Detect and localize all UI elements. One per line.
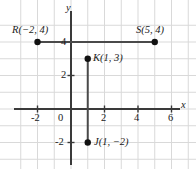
x-axis-label: x	[181, 100, 186, 111]
y-tick-label-2: 2	[61, 70, 66, 81]
y-axis-label: y	[66, 3, 71, 14]
x-tick-label--2: -2	[31, 113, 40, 124]
point-label-S: S(5, 4)	[136, 25, 164, 36]
coordinate-plane-figure: R(−2, 4) S(5, 4) K(1, 3) J(1, −2) -2 0 2…	[0, 0, 196, 169]
point-R	[34, 39, 40, 45]
x-tick-label-2: 2	[101, 113, 106, 124]
x-tick-label-6: 6	[168, 113, 173, 124]
y-tick-label-4: 4	[61, 37, 66, 48]
y-tick-label--2: -2	[55, 137, 64, 148]
point-label-R: R(−2, 4)	[12, 25, 48, 36]
x-tick-label-0: 0	[58, 113, 63, 124]
point-label-J: J(1, −2)	[94, 137, 129, 148]
point-S	[152, 39, 158, 45]
x-tick-label-4: 4	[134, 113, 139, 124]
point-label-K: K(1, 3)	[93, 53, 123, 64]
point-K	[85, 56, 91, 62]
point-J	[85, 139, 91, 145]
